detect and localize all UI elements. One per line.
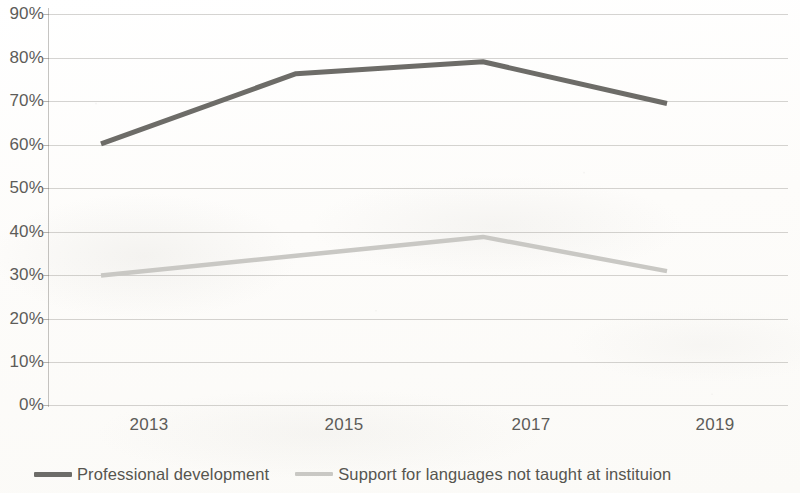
y-axis-label-20: 20% xyxy=(0,309,44,329)
plot-area xyxy=(48,10,788,405)
chart-legend: Professional development Support for lan… xyxy=(0,455,800,493)
y-axis-label-90: 90% xyxy=(0,4,44,24)
gridline-0 xyxy=(48,405,788,406)
y-axis-label-50: 50% xyxy=(0,178,44,198)
y-axis-label-40: 40% xyxy=(0,222,44,242)
y-axis-label-80: 80% xyxy=(0,48,44,68)
legend-item-professional-development[interactable]: Professional development xyxy=(34,465,269,484)
x-axis-label-2013: 2013 xyxy=(129,415,168,435)
y-axis-label-70: 70% xyxy=(0,91,44,111)
series-layer xyxy=(48,10,788,405)
legend-line-swatch-icon xyxy=(295,472,333,476)
legend-label-professional-development: Professional development xyxy=(77,465,269,484)
series-line-support-for-languages xyxy=(101,237,667,276)
y-axis-label-10: 10% xyxy=(0,352,44,372)
y-axis-label-30: 30% xyxy=(0,265,44,285)
x-axis-label-2017: 2017 xyxy=(511,415,550,435)
x-axis-label-2019: 2019 xyxy=(695,415,734,435)
y-axis-label-0: 0% xyxy=(0,395,44,415)
x-axis-label-2015: 2015 xyxy=(324,415,363,435)
series-line-professional-development xyxy=(101,62,667,144)
legend-line-swatch-icon xyxy=(34,472,72,477)
line-chart: 90% 80% 70% 60% 50% 40% 30% 20% 10% 0% xyxy=(0,0,800,493)
x-axis-tick-labels: 2013 2015 2017 2019 xyxy=(48,415,788,447)
y-axis-label-60: 60% xyxy=(0,135,44,155)
legend-label-support-for-languages: Support for languages not taught at inst… xyxy=(338,465,671,484)
legend-item-support-for-languages[interactable]: Support for languages not taught at inst… xyxy=(295,465,671,484)
